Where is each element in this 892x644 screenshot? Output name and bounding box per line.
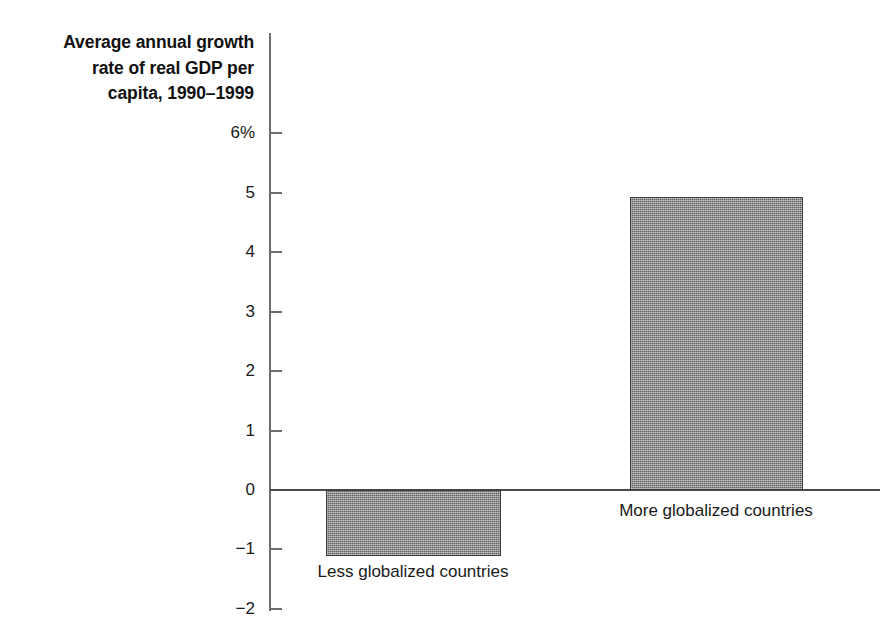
y-tick-mark-1 [271, 430, 282, 432]
y-tick-mark-3 [271, 311, 282, 313]
chart-title: Average annual growth rate of real GDP p… [0, 30, 254, 107]
bar-label-more-globalized-countries: More globalized countries [591, 501, 841, 520]
y-tick-label-2: 2 [201, 362, 255, 379]
y-tick-label-neg1: −1 [201, 540, 255, 557]
y-tick-mark-6 [271, 132, 282, 134]
y-axis-line [269, 33, 271, 611]
y-tick-label-6: 6% [201, 124, 255, 141]
y-tick-label-5: 5 [201, 184, 255, 201]
y-tick-label-neg2: −2 [201, 600, 255, 617]
y-tick-mark-neg2 [271, 608, 282, 610]
y-tick-mark-5 [271, 192, 282, 194]
y-tick-label-4: 4 [201, 243, 255, 260]
y-tick-mark-2 [271, 370, 282, 372]
y-tick-label-0: 0 [201, 481, 255, 498]
bar-less-globalized-countries [326, 490, 501, 556]
bar-chart: Average annual growth rate of real GDP p… [0, 0, 892, 644]
y-tick-mark-neg1 [271, 548, 282, 550]
y-tick-label-1: 1 [201, 422, 255, 439]
y-tick-label-3: 3 [201, 303, 255, 320]
y-tick-mark-4 [271, 251, 282, 253]
bar-label-less-globalized-countries: Less globalized countries [288, 562, 538, 581]
bar-more-globalized-countries [630, 197, 803, 490]
